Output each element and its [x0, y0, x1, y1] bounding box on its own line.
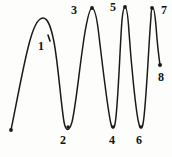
point-label-1: 1 [38, 40, 44, 52]
marker-point-5-maximum [123, 5, 127, 9]
marker-start-point [9, 128, 13, 132]
oscillating-curve-figure: 1 2 3 4 5 6 7 8 [0, 0, 172, 157]
marker-point-8-endpoint [158, 63, 162, 67]
point-label-2: 2 [60, 134, 66, 146]
point-label-4: 4 [109, 134, 115, 146]
point-label-3: 3 [71, 4, 77, 16]
marker-point-3-maximum [90, 6, 94, 10]
point-label-7: 7 [161, 4, 167, 16]
point-label-6: 6 [136, 134, 142, 146]
marker-point-6-minimum [139, 125, 142, 128]
marker-point-2-minimum [66, 125, 69, 128]
marker-point-4-minimum [111, 125, 114, 128]
curve-plot [0, 0, 172, 157]
point-label-8: 8 [158, 71, 164, 83]
point-label-5: 5 [110, 1, 116, 13]
marker-point-7-maximum [150, 6, 154, 10]
